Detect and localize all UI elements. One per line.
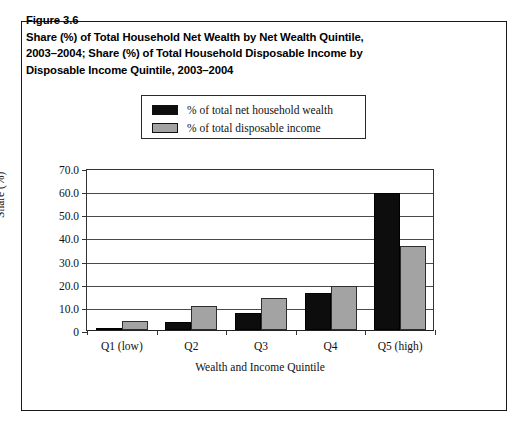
bar-group bbox=[157, 168, 227, 330]
x-tick-mark bbox=[226, 330, 227, 335]
bar bbox=[331, 286, 357, 330]
x-tick-label: Q4 bbox=[324, 340, 338, 352]
bar-group bbox=[226, 168, 296, 330]
bar bbox=[235, 313, 261, 330]
bar bbox=[122, 321, 148, 330]
x-tick-mark bbox=[296, 330, 297, 335]
plot-area: 70.060.050.040.030.020.010.00 Q1 (low)Q2… bbox=[86, 148, 434, 331]
y-tick-label: 70.0 bbox=[59, 164, 79, 176]
bar-group bbox=[87, 168, 157, 330]
x-tick-mark bbox=[435, 330, 436, 335]
x-tick-label: Q3 bbox=[254, 340, 268, 352]
bar bbox=[400, 246, 426, 330]
y-tick-label: 30.0 bbox=[59, 257, 79, 269]
bar bbox=[261, 298, 287, 330]
y-tick-label: 0 bbox=[73, 326, 79, 338]
bar bbox=[165, 322, 191, 330]
bar-group bbox=[365, 168, 435, 330]
grid-frame: 70.060.050.040.030.020.010.00 Q1 (low)Q2… bbox=[86, 169, 434, 331]
bar bbox=[305, 293, 331, 330]
y-tick-label: 40.0 bbox=[59, 233, 79, 245]
bars-layer bbox=[87, 168, 435, 330]
x-tick-label: Q1 (low) bbox=[101, 340, 143, 352]
y-axis-title: Share (%) bbox=[0, 172, 6, 218]
bar bbox=[191, 306, 217, 330]
y-tick-label: 50.0 bbox=[59, 210, 79, 222]
bar bbox=[96, 328, 122, 330]
x-tick-mark bbox=[157, 330, 158, 335]
y-tick-label: 20.0 bbox=[59, 280, 79, 292]
x-tick-mark bbox=[365, 330, 366, 335]
x-tick-mark bbox=[87, 330, 88, 335]
x-axis-title: Wealth and Income Quintile bbox=[86, 361, 434, 373]
y-tick-label: 60.0 bbox=[59, 187, 79, 199]
y-tick-label: 10.0 bbox=[59, 303, 79, 315]
bar bbox=[374, 193, 400, 330]
bar-group bbox=[296, 168, 366, 330]
x-tick-label: Q5 (high) bbox=[378, 340, 423, 352]
chart-plot-wrapper: Share (%) 70.060.050.040.030.020.010.00 … bbox=[0, 0, 486, 390]
x-tick-label: Q2 bbox=[184, 340, 198, 352]
